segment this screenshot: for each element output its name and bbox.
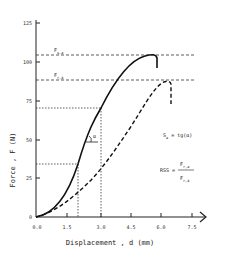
x-axis-title: Displacement , d (mm) <box>66 239 155 247</box>
rss-formula: RSS = Fr,a Fr,ā <box>160 161 194 183</box>
fra-label: Fr,ā <box>54 72 63 80</box>
solid-curve <box>36 55 157 217</box>
alpha-label: α <box>93 133 96 139</box>
x-tick-3-0: 3.0 <box>96 224 105 230</box>
y-tick-100: 100 <box>23 59 32 65</box>
x-tick-4-5: 4.5 <box>126 224 135 230</box>
force-displacement-chart: 0 25 50 75 100 125 0.0 1.5 3.0 4.5 6.0 7… <box>0 0 226 259</box>
y-tick-75: 75 <box>26 98 32 104</box>
y-tick-50: 50 <box>26 137 32 143</box>
x-tick-1-5: 1.5 <box>62 224 71 230</box>
rss-numerator: Fr,a <box>180 161 189 169</box>
y-tick-125: 125 <box>23 20 32 26</box>
y-tick-labels: 0 25 50 75 100 125 <box>23 20 32 220</box>
rss-label: RSS = <box>160 167 175 173</box>
y-tick-0: 0 <box>29 214 32 220</box>
x-tick-labels: 0.0 1.5 3.0 4.5 6.0 7.5 <box>32 224 196 230</box>
fsa-label: Fs,a <box>54 47 63 55</box>
rss-denominator: Fr,ā <box>180 175 189 183</box>
y-axis-title: Force , F (N) <box>9 133 17 188</box>
x-tick-6-0: 6.0 <box>156 224 165 230</box>
x-tick-0: 0.0 <box>32 224 41 230</box>
y-tick-25: 25 <box>26 175 32 181</box>
x-tick-7-5: 7.5 <box>187 224 196 230</box>
sa-formula: Sa = tg(α) <box>163 132 192 140</box>
